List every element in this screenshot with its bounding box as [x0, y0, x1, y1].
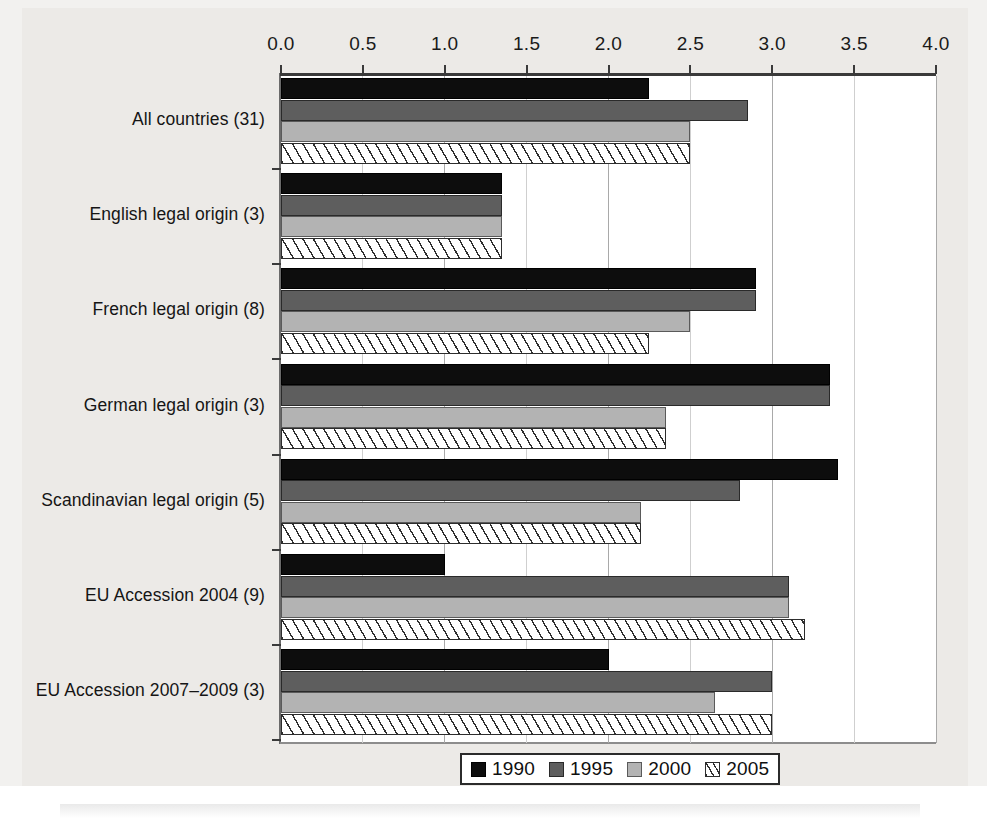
x-axis-tick-label: 1.0 — [431, 33, 458, 55]
bar-1995 — [281, 576, 789, 597]
x-gridline — [690, 76, 691, 743]
x-axis-tick — [689, 65, 691, 74]
legend-item[interactable]: 2000 — [627, 758, 691, 780]
legend-swatch-1990-icon — [471, 762, 486, 777]
bar-chart: 0.00.51.01.52.02.53.03.54.0All countries… — [0, 0, 987, 822]
x-axis-tick — [853, 65, 855, 74]
bar-2000 — [281, 121, 690, 142]
bar-1990 — [281, 459, 838, 480]
legend-item[interactable]: 1995 — [549, 758, 613, 780]
legend-label-1995: 1995 — [570, 758, 613, 780]
x-axis-tick — [771, 65, 773, 74]
x-axis-tick — [280, 65, 282, 74]
x-axis-tick-label: 4.0 — [922, 33, 949, 55]
x-axis-tick — [526, 65, 528, 74]
x-axis-tick-label: 2.0 — [595, 33, 622, 55]
x-axis-tick-label: 3.5 — [840, 33, 867, 55]
category-label: EU Accession 2004 (9) — [85, 585, 265, 606]
bar-2005 — [281, 428, 666, 449]
category-label: All countries (31) — [132, 109, 265, 130]
bar-1995 — [281, 385, 830, 406]
category-tick — [272, 358, 281, 360]
bar-2005 — [281, 619, 805, 640]
x-gridline — [772, 76, 773, 743]
bar-2000 — [281, 502, 641, 523]
legend-label-2005: 2005 — [726, 758, 769, 780]
bar-1995 — [281, 195, 502, 216]
x-axis-tick — [608, 65, 610, 74]
bar-1995 — [281, 100, 748, 121]
legend-label-2000: 2000 — [648, 758, 691, 780]
category-tick — [272, 263, 281, 265]
bar-1990 — [281, 554, 445, 575]
bar-2000 — [281, 311, 690, 332]
x-axis-tick — [444, 65, 446, 74]
bar-2005 — [281, 714, 772, 735]
bar-2005 — [281, 143, 690, 164]
category-tick — [272, 168, 281, 170]
category-tick — [272, 644, 281, 646]
legend-swatch-2000-icon — [627, 762, 642, 777]
bar-1990 — [281, 268, 756, 289]
figure-page: 0.00.51.01.52.02.53.03.54.0All countries… — [0, 0, 987, 822]
bar-2000 — [281, 407, 666, 428]
category-label: German legal origin (3) — [84, 395, 265, 416]
bar-2000 — [281, 692, 715, 713]
bar-1995 — [281, 671, 772, 692]
x-gridline — [854, 76, 855, 743]
category-label: French legal origin (8) — [92, 299, 265, 320]
bar-1990 — [281, 78, 649, 99]
bar-2005 — [281, 238, 502, 259]
x-axis-tick-label: 1.5 — [513, 33, 540, 55]
bar-1990 — [281, 649, 609, 670]
bar-2000 — [281, 216, 502, 237]
bar-2000 — [281, 597, 789, 618]
bar-1995 — [281, 480, 740, 501]
legend-swatch-2005-icon — [705, 762, 720, 777]
legend-item[interactable]: 1990 — [471, 758, 535, 780]
x-axis-tick — [362, 65, 364, 74]
x-axis-tick-label: 3.0 — [759, 33, 786, 55]
category-label: Scandinavian legal origin (5) — [41, 490, 265, 511]
x-axis-tick-label: 2.5 — [677, 33, 704, 55]
bar-1990 — [281, 173, 502, 194]
caption-text-fragment — [60, 804, 920, 818]
category-label: English legal origin (3) — [89, 204, 265, 225]
chart-legend: 1990 1995 2000 2005 — [460, 753, 780, 785]
bar-1995 — [281, 290, 756, 311]
category-tick — [272, 739, 281, 741]
x-axis-tick — [935, 65, 937, 74]
x-axis-tick-label: 0.5 — [349, 33, 376, 55]
legend-item[interactable]: 2005 — [705, 758, 769, 780]
category-tick — [272, 454, 281, 456]
x-gridline — [936, 76, 937, 743]
bar-2005 — [281, 333, 649, 354]
category-tick — [272, 549, 281, 551]
bar-1990 — [281, 364, 830, 385]
legend-label-1990: 1990 — [492, 758, 535, 780]
legend-swatch-1995-icon — [549, 762, 564, 777]
category-label: EU Accession 2007–2009 (3) — [36, 680, 265, 701]
bar-2005 — [281, 523, 641, 544]
x-axis-tick-label: 0.0 — [267, 33, 294, 55]
